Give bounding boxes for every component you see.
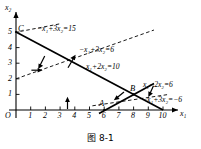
y-axis-arrowhead (13, 12, 18, 18)
equation-label-minus-x1-plus-3x2-eq-6: −x₁+3x₂=6 (79, 46, 114, 54)
x-tick-label-3: 3 (58, 112, 62, 120)
figure-caption: 图 8-1 (0, 131, 201, 144)
y-tick-label-1: 1 (8, 90, 12, 98)
point-label-c: C (18, 24, 24, 33)
y-tick-label-2: 2 (8, 75, 12, 83)
y-tick-label-3: 3 (8, 59, 12, 67)
direction-arrow-up-right (68, 55, 76, 68)
equation-label-x1-plus-2x2-eq-10: x₁+2x₂=10 (86, 63, 120, 71)
equation-label-x1-minus-2x2-eq-6: x₁−2x₂=6 (143, 81, 173, 89)
vertex-dot-b (133, 93, 135, 95)
x-tick-label-2: 2 (43, 112, 47, 120)
point-label-b: B (130, 84, 135, 93)
x-tick-label-8: 8 (131, 112, 135, 120)
x-tick-label-4: 4 (72, 112, 76, 120)
direction-arrow-right (31, 68, 42, 73)
equation-label-minus-x1-plus-3x2-eq-minus-6: −x₁+3x₂=−6 (142, 96, 182, 104)
x-tick-label-10: 10 (158, 112, 166, 120)
dashed-line-minus-x1-plus-3x2-eq-6 (16, 30, 154, 79)
x-axis-label: x₁ (180, 110, 186, 118)
y-tick-label-4: 4 (8, 44, 12, 52)
point-label-a: A (99, 99, 104, 108)
x-tick-label-1: 1 (28, 112, 32, 120)
x-tick-label-7: 7 (116, 112, 120, 120)
direction-arrow-up (65, 97, 70, 109)
x-axis-arrowhead (172, 107, 178, 112)
linear-programming-plot (0, 0, 201, 149)
x-tick-label-5: 5 (87, 112, 91, 120)
figure-container: x₂ x₁ O 1 2 3 4 5 6 7 8 9 10 1 2 3 4 5 C… (0, 0, 201, 149)
x-tick-label-9: 9 (146, 112, 150, 120)
y-tick-label-5: 5 (8, 28, 12, 36)
direction-arrow-down-left (38, 56, 45, 69)
vertex-dot-c (15, 31, 17, 33)
equation-label-minus-x1-plus-3x2-eq-15: −x₁+3x₂=15 (37, 25, 76, 33)
direction-arrow-down-left-2 (114, 92, 124, 100)
x-tick-label-6: 6 (102, 112, 106, 120)
y-axis-label: x₂ (5, 4, 11, 12)
origin-label: O (5, 112, 11, 120)
